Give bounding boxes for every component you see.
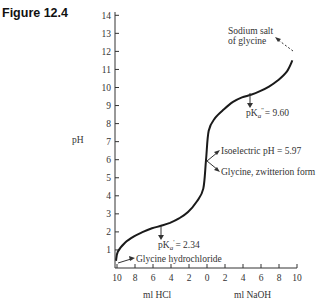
x-tick-label: 6 bbox=[151, 273, 156, 283]
y-tick-label: 7 bbox=[106, 137, 111, 147]
x-tick-label: 6 bbox=[259, 273, 264, 283]
x-ticks: 1086420246810 bbox=[112, 264, 302, 283]
annotation-hydrochloride: Glycine hydrochloride bbox=[136, 254, 222, 264]
y-ticks: 1234567891011121314 bbox=[102, 11, 120, 256]
y-tick-label: 14 bbox=[102, 11, 112, 21]
annotation-isoelectric: Isoelectric pH = 5.97 bbox=[221, 146, 302, 156]
y-tick-label: 13 bbox=[102, 29, 112, 39]
y-tick-label: 5 bbox=[106, 173, 111, 183]
y-tick-label: 3 bbox=[106, 209, 111, 219]
annotation-pka1: pKa'= 2.34 bbox=[158, 238, 200, 252]
x-tick-label: 10 bbox=[112, 273, 122, 283]
y-tick-label: 6 bbox=[106, 155, 111, 165]
annotation-sodium-salt-2: of glycine bbox=[228, 36, 266, 46]
y-axis-title: pH bbox=[72, 135, 84, 145]
titration-curve bbox=[116, 60, 292, 260]
annotation-zwitterion: Glycine, zwitterion form bbox=[221, 167, 316, 177]
annotation-pka2: pKa''= 9.60 bbox=[246, 106, 289, 120]
arrow-hydrochloride bbox=[118, 259, 131, 263]
y-tick-label: 12 bbox=[102, 47, 112, 57]
y-tick-label: 2 bbox=[106, 227, 111, 237]
x-tick-label: 10 bbox=[292, 273, 302, 283]
arrowhead-icon bbox=[129, 256, 135, 261]
y-tick-label: 8 bbox=[106, 119, 111, 129]
x-axis-title-hcl: ml HCl bbox=[143, 290, 172, 300]
y-tick-label: 1 bbox=[106, 245, 111, 255]
x-tick-label: 4 bbox=[241, 273, 246, 283]
x-tick-label: 2 bbox=[187, 273, 192, 283]
x-tick-label: 8 bbox=[133, 273, 138, 283]
y-tick-label: 9 bbox=[106, 101, 111, 111]
y-tick-label: 11 bbox=[102, 65, 111, 75]
titration-chart: 1234567891011121314 pH 1086420246810 ml … bbox=[0, 0, 328, 304]
y-tick-label: 4 bbox=[106, 191, 111, 201]
y-tick-label: 10 bbox=[102, 83, 112, 93]
annotation-sodium-salt-1: Sodium salt bbox=[228, 26, 273, 36]
dashed-arrow-sodium-salt bbox=[277, 39, 293, 51]
x-axis-title-naoh: ml NaOH bbox=[234, 290, 271, 300]
x-tick-label: 8 bbox=[277, 273, 282, 283]
x-tick-label: 4 bbox=[169, 273, 174, 283]
x-tick-label: 0 bbox=[205, 273, 210, 283]
x-tick-label: 2 bbox=[223, 273, 228, 283]
